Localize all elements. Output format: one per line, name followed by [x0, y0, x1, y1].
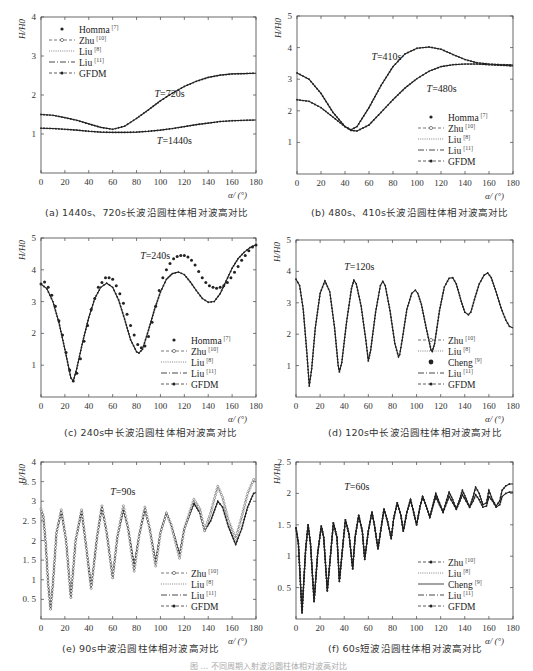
x-tick-label: 160 — [482, 178, 496, 188]
legend-label: Homma[7] — [191, 335, 231, 346]
x-tick-label: 0 — [294, 623, 299, 633]
y-tick-label: 4 — [32, 12, 37, 22]
y-tick-label: 4 — [32, 265, 37, 275]
x-tick-label: 40 — [84, 401, 94, 411]
y-tick-label: 3 — [32, 51, 37, 61]
legend-entry: Liu[11] — [49, 57, 104, 68]
x-tick-label: 180 — [506, 178, 520, 188]
x-tick-label: 20 — [317, 178, 327, 188]
x-tick-label: 160 — [225, 177, 239, 187]
legend-entry: GFDM — [418, 380, 476, 390]
y-tick-label: 1 — [287, 361, 292, 371]
legend-entry: Liu[8] — [418, 568, 470, 579]
legend-entry: Liu[8] — [161, 357, 213, 368]
legend-label: Liu[11] — [191, 590, 216, 601]
y-tick-label: 2 — [32, 90, 37, 100]
legend-entry: Homma[7] — [60, 24, 118, 35]
legend-entry: Zhu[10] — [418, 335, 475, 346]
x-tick-label: 60 — [364, 623, 374, 633]
legend-entry: GFDM — [418, 157, 476, 167]
chart-e-caption: (e) 90s中波沿圆柱体相对波高对比 — [62, 641, 219, 655]
legend-label: Zhu[10] — [191, 568, 218, 579]
x-tick-label: 40 — [84, 177, 94, 187]
x-tick-label: 60 — [364, 401, 374, 411]
legend-entry: Liu[11] — [161, 368, 216, 379]
legend-label: Liu[8] — [79, 46, 101, 57]
x-axis-label: α/ (°) — [485, 191, 504, 201]
legend-label: GFDM — [191, 602, 219, 612]
y-axis-label: H/H0 — [273, 18, 283, 39]
legend-entry: Zhu[10] — [161, 568, 218, 579]
series — [40, 243, 258, 382]
y-tick-label: 2 — [287, 488, 292, 498]
y-tick-label: 4 — [288, 43, 293, 53]
period-annotation: T=240s — [140, 250, 170, 261]
legend-entry: Zhu[10] — [418, 557, 475, 568]
x-tick-label: 160 — [482, 401, 496, 411]
legend-label: Zhu[10] — [448, 123, 475, 134]
legend-entry: Liu[11] — [161, 590, 216, 601]
legend-label: GFDM — [448, 157, 476, 167]
x-tick-label: 120 — [178, 623, 192, 633]
legend-label: GFDM — [191, 380, 219, 390]
x-tick-label: 80 — [132, 623, 142, 633]
legend-label: Liu[8] — [448, 134, 470, 145]
x-tick-label: 180 — [249, 177, 263, 187]
x-tick-label: 0 — [39, 177, 44, 187]
legend-entry: GFDM — [161, 380, 219, 390]
y-tick-label: 1 — [288, 137, 293, 147]
period-annotation: T=1440s — [157, 135, 192, 146]
x-tick-label: 140 — [458, 178, 472, 188]
y-axis-label: H/H0 — [17, 464, 27, 485]
legend-entry: Zhu[10] — [161, 346, 218, 357]
y-tick-label: 1. 5 — [23, 555, 37, 565]
chart-e-plot: 0204060801001201401601800. 511. 522. 533… — [0, 445, 266, 650]
legend-label: Liu[11] — [79, 57, 104, 68]
legend-label: Cheng[9] — [448, 357, 482, 368]
legend-label: Liu[8] — [448, 568, 470, 579]
series — [296, 46, 513, 132]
x-tick-label: 160 — [225, 401, 239, 411]
legend: Zhu[10]Liu[8]Cheng[9]Liu[11]GFDM — [418, 557, 482, 612]
y-tick-label: 3 — [32, 496, 37, 506]
legend-label: GFDM — [79, 69, 107, 79]
period-annotation: T=90s — [110, 486, 135, 497]
x-tick-label: 120 — [178, 177, 192, 187]
legend-entry: Zhu[10] — [49, 35, 106, 46]
x-axis-label: α/ (°) — [228, 414, 247, 424]
axes: 0204060801001201401601801234α/ (°)H/H0 — [17, 12, 263, 200]
y-tick-label: 3 — [32, 297, 37, 307]
y-tick-label: 5 — [287, 235, 292, 245]
legend-entry: Cheng[9] — [429, 357, 482, 368]
legend-entry: GFDM — [418, 602, 476, 612]
chart-panel-a: 0204060801001201401601801234α/ (°)H/H0T=… — [0, 0, 266, 220]
y-tick-label: 2. 5 — [23, 516, 37, 526]
y-tick-label: 4 — [32, 457, 37, 467]
legend-entry: GFDM — [49, 69, 107, 79]
chart-b-caption: (b) 480s、410s长波沿圆柱体相对波高对比 — [311, 205, 509, 219]
x-axis-label: α/ (°) — [228, 190, 247, 200]
legend: Zhu[10]Liu[8]Liu[11]GFDM — [161, 568, 219, 612]
x-tick-label: 100 — [410, 623, 424, 633]
x-tick-label: 0 — [39, 623, 44, 633]
x-tick-label: 100 — [154, 623, 168, 633]
x-tick-label: 100 — [154, 401, 168, 411]
period-annotation: T=410s — [371, 51, 401, 62]
x-axis-label: α/ (°) — [228, 636, 247, 646]
legend-label: Homma[7] — [79, 24, 119, 35]
legend-entry: Liu[8] — [49, 46, 101, 57]
x-tick-label: 120 — [434, 178, 448, 188]
x-tick-label: 20 — [60, 177, 70, 187]
y-tick-label: 1 — [32, 575, 37, 585]
legend: Homma[7]Zhu[10]Liu[8]Liu[11]GFDM — [161, 335, 231, 390]
x-tick-label: 20 — [60, 623, 70, 633]
x-tick-label: 60 — [365, 178, 375, 188]
x-tick-label: 180 — [249, 623, 263, 633]
chart-panel-e: 0204060801001201401601800. 511. 522. 533… — [0, 445, 266, 671]
x-tick-label: 0 — [295, 178, 300, 188]
series — [40, 478, 256, 611]
legend-label: Homma[7] — [448, 112, 488, 123]
legend: Homma[7]Zhu[10]Liu[8]Liu[11]GFDM — [418, 112, 488, 167]
x-tick-label: 180 — [506, 401, 520, 411]
legend-label: Cheng[9] — [448, 579, 482, 590]
